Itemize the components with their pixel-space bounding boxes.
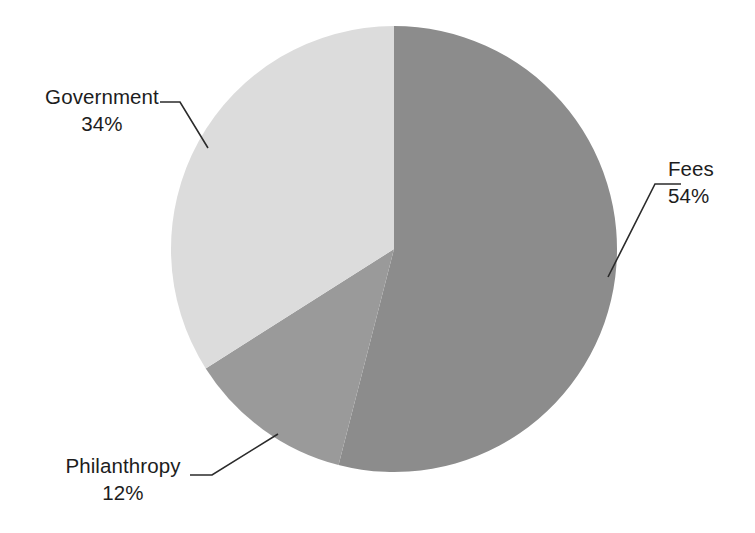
pie-label-philanthropy: Philanthropy 12% xyxy=(53,452,193,507)
pie-label-philanthropy-percent: 12% xyxy=(53,479,193,506)
pie-label-fees: Fees 54% xyxy=(668,155,748,210)
pie-label-government-percent: 34% xyxy=(27,110,177,137)
pie-chart-figure: Government 34% Fees 54% Philanthropy 12% xyxy=(0,0,755,533)
pie-label-fees-name: Fees xyxy=(668,155,748,182)
pie-label-philanthropy-name: Philanthropy xyxy=(53,452,193,479)
pie-label-fees-percent: 54% xyxy=(668,182,748,209)
leader-line-philanthropy xyxy=(190,434,278,475)
pie-label-government-name: Government xyxy=(27,83,177,110)
pie-label-government: Government 34% xyxy=(27,83,177,138)
pie-slices xyxy=(171,26,617,472)
